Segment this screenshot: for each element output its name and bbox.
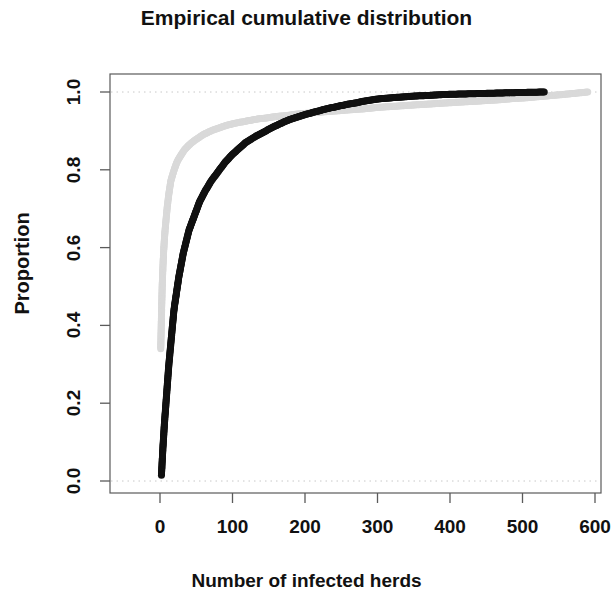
y-tick-label: 0.0	[63, 468, 85, 494]
y-tick-label: 0.4	[63, 312, 85, 338]
x-tick-label: 0	[155, 516, 166, 538]
y-tick-label: 0.6	[63, 234, 85, 260]
chart-figure: Empirical cumulative distribution 010020…	[0, 0, 613, 605]
plot-box	[110, 74, 601, 493]
y-tick-label: 0.8	[63, 157, 85, 183]
x-axis-label: Number of infected herds	[0, 570, 613, 592]
y-tick-label: 0.2	[63, 390, 85, 416]
x-tick-label: 200	[289, 516, 321, 538]
y-tick-label: 1.0	[63, 79, 85, 105]
x-tick-label: 400	[434, 516, 466, 538]
x-tick-label: 100	[217, 516, 249, 538]
y-axis-label: Proportion	[11, 204, 34, 324]
series-gray-ecdf-points	[157, 89, 591, 353]
series-black-ecdf-points	[158, 89, 548, 479]
x-tick-label: 300	[362, 516, 394, 538]
x-tick-label: 500	[507, 516, 539, 538]
data-point	[541, 89, 548, 96]
data-point	[584, 89, 591, 96]
plot-area	[0, 0, 613, 605]
x-tick-label: 600	[579, 516, 611, 538]
plot-box-frame	[110, 74, 601, 493]
